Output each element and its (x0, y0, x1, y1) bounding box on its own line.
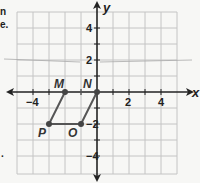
x-tick-label-neg4: −4 (26, 97, 39, 108)
point-p (46, 121, 52, 127)
point-o (78, 121, 84, 127)
text-fragment: . (1, 148, 4, 159)
label-n: N (83, 78, 92, 90)
x-tick-label-4: 4 (158, 97, 164, 108)
x-tick-label-2: 2 (125, 97, 131, 108)
label-p: P (38, 127, 46, 139)
label-m: M (54, 78, 64, 90)
label-o: O (68, 127, 77, 139)
y-axis-label: y (103, 1, 110, 14)
coordinate-plane (0, 0, 200, 183)
text-fragment: e. (0, 19, 8, 30)
y-tick-label-2: 2 (86, 55, 92, 66)
x-axis-label: x (192, 86, 199, 99)
y-tick-label-4: 4 (86, 23, 92, 34)
point-n (94, 89, 100, 95)
y-tick-label-neg4: −4 (86, 151, 99, 162)
y-tick-label-neg2: −2 (86, 119, 99, 130)
text-fragment: n (0, 6, 6, 17)
